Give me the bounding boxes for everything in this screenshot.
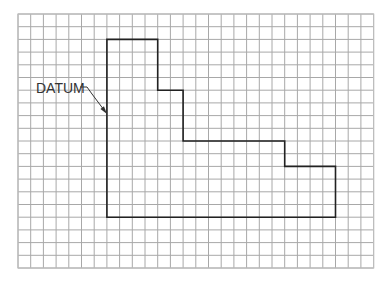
datum-arrow-icon bbox=[100, 106, 107, 114]
grid-drawing bbox=[0, 0, 390, 284]
datum-label: DATUM bbox=[36, 81, 85, 95]
